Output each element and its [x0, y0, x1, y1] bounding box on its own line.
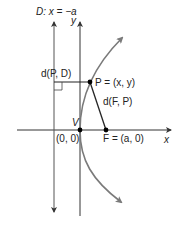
right-angle-marker: [54, 82, 62, 90]
x-axis-label: x: [163, 134, 170, 145]
focus-label: F = (a, 0): [103, 133, 144, 144]
point-vertex: [78, 128, 83, 133]
origin-label: (0, 0): [56, 133, 79, 144]
point-p: [88, 80, 93, 85]
parabola-diagram: D: x = −a y x d(P, D) P = (x, y) d(F, P)…: [0, 0, 186, 230]
point-p-label: P = (x, y): [95, 77, 135, 88]
vertex-label: V: [72, 117, 80, 128]
y-axis-label: y: [70, 15, 77, 26]
point-focus: [104, 128, 109, 133]
distance-f-p-label: d(F, P): [103, 96, 132, 107]
distance-p-d-label: d(P, D): [41, 68, 71, 79]
